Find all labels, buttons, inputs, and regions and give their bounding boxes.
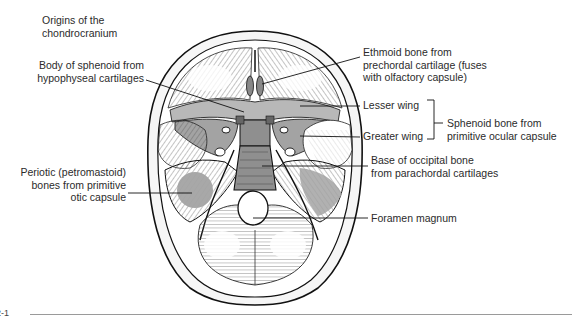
label-line: primitive ocular capsule (447, 130, 557, 143)
label-greater-wing: Greater wing (363, 130, 423, 143)
label-body-of-sphenoid: Body of sphenoid from hypophyseal cartil… (20, 59, 144, 84)
label-line: hypophyseal cartilages (20, 72, 144, 85)
figure-title-line-1: Origins of the (42, 14, 117, 27)
label-line: bones from primitive (0, 179, 126, 192)
label-line: otic capsule (0, 191, 126, 204)
foramen-magnum-shape (238, 191, 268, 225)
label-line: Periotic (petromastoid) (0, 166, 126, 179)
figure-divider (30, 314, 572, 315)
figure-title-line-2: chondrocranium (42, 27, 117, 40)
label-ethmoid: Ethmoid bone from prechordal cartilage (… (363, 46, 487, 84)
label-periotic: Periotic (petromastoid) bones from primi… (0, 166, 126, 204)
label-line: Ethmoid bone from (363, 46, 487, 59)
bracket-sphenoid (427, 100, 434, 139)
label-base-of-occipital: Base of occipital bone from parachordal … (371, 154, 498, 179)
label-line: Base of occipital bone (371, 154, 498, 167)
label-line: with olfactory capsule) (363, 71, 487, 84)
label-lesser-wing: Lesser wing (363, 99, 419, 112)
label-sphenoid-bone: Sphenoid bone from primitive ocular caps… (447, 117, 557, 142)
label-line: from parachordal cartilages (371, 167, 498, 180)
label-line: Body of sphenoid from (20, 59, 144, 72)
figure-number: 2-1 (0, 308, 9, 318)
label-line: Sphenoid bone from (447, 117, 557, 130)
label-line: prechordal cartilage (fuses (363, 59, 487, 72)
figure-title: Origins of the chondrocranium (42, 14, 117, 39)
label-foramen-magnum: Foramen magnum (371, 212, 457, 225)
